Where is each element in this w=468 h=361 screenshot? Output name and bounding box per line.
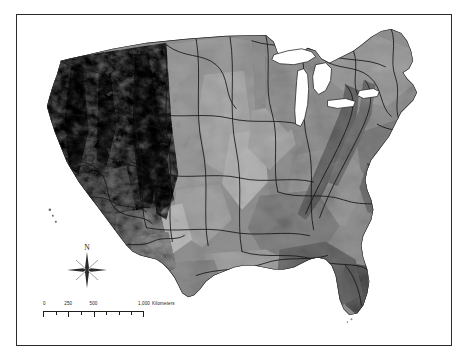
scale-tick-minor — [81, 311, 82, 315]
us-ecoregion-map-graphic — [17, 15, 451, 345]
north-arrow-label: N — [84, 243, 89, 252]
compass-star-icon — [67, 252, 107, 288]
north-arrow: N — [67, 243, 107, 289]
scale-tick-major — [68, 311, 69, 317]
scale-tick-label-1000: 1,000 — [138, 301, 150, 306]
scale-tick-major — [94, 311, 95, 317]
scale-tick-label-500: 500 — [90, 301, 98, 306]
scale-tick-minor — [106, 311, 107, 315]
scale-tick-label-250: 250 — [64, 301, 72, 306]
scale-tick-major — [143, 311, 144, 317]
scale-tick-minor — [131, 311, 132, 315]
scale-tick-minor — [119, 311, 120, 315]
scale-units-label: Kilometers — [152, 301, 175, 306]
map-frame: N 0 250 500 — [16, 14, 452, 346]
scale-bar-graphic — [43, 311, 144, 320]
scale-bar: 0 250 500 1,000 Kilometers — [43, 301, 193, 327]
screenshot-root: N 0 250 500 — [0, 0, 468, 361]
scale-tick-major — [43, 311, 44, 317]
scale-tick-minor — [56, 311, 57, 315]
map-canvas — [17, 15, 451, 345]
scale-bar-labels: 0 250 500 1,000 Kilometers — [43, 301, 193, 310]
scale-tick-label-0: 0 — [43, 301, 46, 306]
